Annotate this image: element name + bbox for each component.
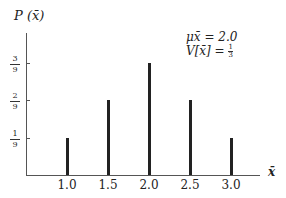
variance-fraction: 1 3 — [228, 44, 232, 59]
y-axis — [26, 33, 27, 175]
x-tick-label-3-0: 3.0 — [216, 178, 246, 192]
x-tick-label-1-5: 1.5 — [93, 178, 123, 192]
bar-3-0 — [230, 138, 233, 175]
variance-annotation: V[x̄] = 1 3 — [186, 44, 233, 59]
x-tick-label-1-0: 1.0 — [52, 178, 82, 192]
x-tick-label-2-0: 2.0 — [134, 178, 164, 192]
y-axis-title: P (x̄) — [14, 8, 44, 23]
x-axis-title: x̄ — [268, 165, 275, 179]
y-tick-label-2-9: 2 9 — [10, 92, 20, 111]
mean-annotation: μx̄ = 2.0 — [186, 30, 237, 44]
y-tick-label-1-9: 1 9 — [10, 130, 20, 149]
x-axis — [26, 175, 260, 176]
y-tick-1-9 — [26, 138, 30, 139]
bar-1-0 — [66, 138, 69, 175]
y-tick-2-9 — [26, 100, 30, 101]
bar-1-5 — [107, 100, 110, 175]
y-tick-label-3-9: 3 9 — [10, 55, 20, 74]
bar-2-0 — [148, 63, 151, 175]
y-tick-3-9 — [26, 63, 30, 64]
bar-2-5 — [189, 100, 192, 175]
x-tick-label-2-5: 2.5 — [175, 178, 205, 192]
